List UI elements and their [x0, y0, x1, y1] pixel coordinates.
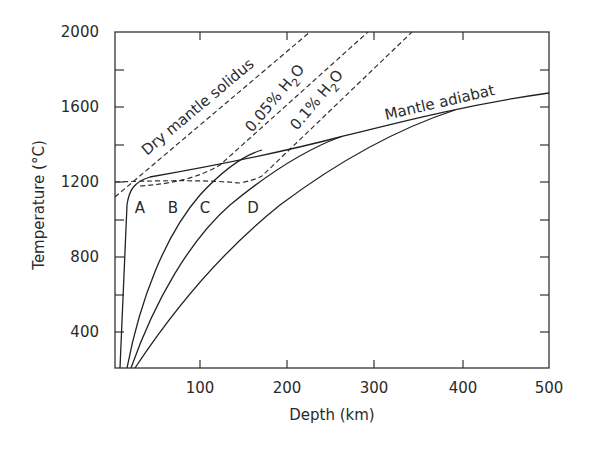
label-b: B — [168, 199, 178, 217]
mantle-adiabat-label: Mantle adiabat — [383, 81, 497, 124]
y-tick-1200: 1200 — [61, 173, 99, 191]
dry-mantle-solidus-line — [115, 32, 310, 197]
y-axis-title: Temperature (°C) — [30, 140, 48, 270]
y-tick-labels: 400 800 1200 1600 2000 — [61, 23, 99, 341]
curve-labels: A B C D — [133, 198, 261, 217]
x-tick-500: 500 — [535, 379, 564, 397]
x-tick-200: 200 — [273, 379, 302, 397]
dry-solidus-label: Dry mantle solidus — [138, 55, 258, 159]
label-a: A — [135, 199, 146, 217]
chart: 100 200 300 400 500 400 800 1200 1600 20… — [0, 0, 589, 456]
x-tick-labels: 100 200 300 400 500 — [186, 379, 564, 397]
label-c: C — [200, 199, 210, 217]
curve-c — [131, 137, 340, 368]
y-tick-400: 400 — [70, 323, 99, 341]
y-tick-800: 800 — [70, 248, 99, 266]
x-tick-100: 100 — [186, 379, 215, 397]
x-axis-title: Depth (km) — [289, 406, 374, 424]
y-tick-2000: 2000 — [61, 23, 99, 41]
label-d: D — [247, 199, 259, 217]
y-tick-1600: 1600 — [61, 98, 99, 116]
solid-curves — [120, 93, 549, 368]
x-tick-400: 400 — [449, 379, 478, 397]
curve-b — [127, 150, 262, 368]
curve-d — [135, 110, 455, 368]
x-tick-300: 300 — [360, 379, 389, 397]
